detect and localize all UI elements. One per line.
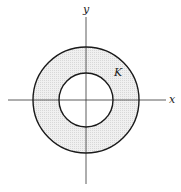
annulus-diagram: x y K xyxy=(0,0,181,192)
region-k-label: K xyxy=(113,66,123,79)
x-axis-label: x xyxy=(169,93,176,106)
y-axis-label: y xyxy=(82,3,90,16)
